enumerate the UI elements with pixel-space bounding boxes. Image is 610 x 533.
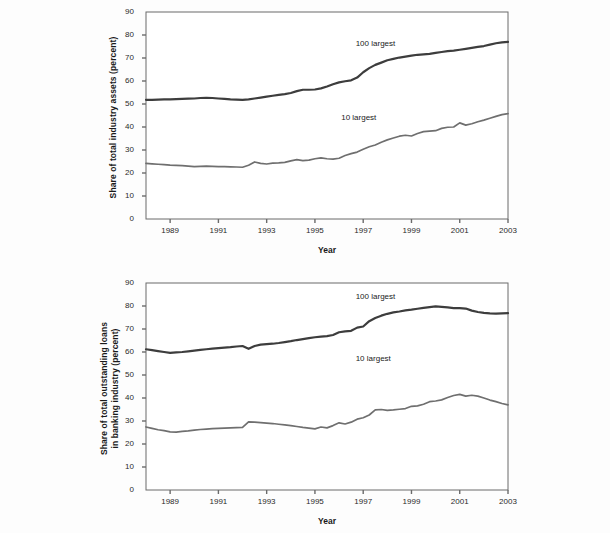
y-tick-label: 60 (114, 348, 134, 356)
y-tick-label: 50 (114, 371, 134, 379)
y-tick-label: 20 (114, 169, 134, 177)
x-tick-label: 2003 (493, 498, 523, 506)
y-tick-label: 10 (114, 192, 134, 200)
y-tick-label: 30 (114, 146, 134, 154)
x-tick-label: 1995 (300, 227, 330, 235)
x-tick-label: 1991 (203, 498, 233, 506)
chart-panel-assets: Share of total industry assets (percent)… (0, 0, 610, 266)
x-tick-label: 1997 (348, 227, 378, 235)
series-annotation-100-largest-top: 100 largest (356, 39, 396, 48)
y-tick-label: 90 (114, 8, 134, 16)
x-tick-label: 1995 (300, 498, 330, 506)
x-tick-label: 1999 (396, 498, 426, 506)
x-tick-label: 1997 (348, 498, 378, 506)
plot-area-bottom (142, 279, 512, 494)
y-tick-label: 20 (114, 440, 134, 448)
y-tick-label: 0 (114, 486, 134, 494)
x-tick-label: 2001 (445, 227, 475, 235)
y-tick-label: 70 (114, 325, 134, 333)
x-tick-label: 1989 (155, 227, 185, 235)
y-tick-label: 70 (114, 54, 134, 62)
y-tick-label: 60 (114, 77, 134, 85)
x-tick-label: 1989 (155, 498, 185, 506)
series-annotation-100-largest-bottom: 100 largest (356, 292, 396, 301)
y-tick-label: 40 (114, 123, 134, 131)
x-tick-label: 2003 (493, 227, 523, 235)
series-annotation-10-largest-top: 10 largest (341, 113, 376, 122)
y-tick-label: 50 (114, 100, 134, 108)
y-tick-label: 0 (114, 215, 134, 223)
plot-area-top (142, 8, 512, 223)
y-tick-label: 30 (114, 417, 134, 425)
y-tick-label: 10 (114, 463, 134, 471)
chart-panel-loans: Share of total outstanding loansin banki… (0, 266, 610, 533)
figure-page: Share of total industry assets (percent)… (0, 0, 610, 533)
x-tick-label: 1993 (252, 227, 282, 235)
y-tick-label: 90 (114, 279, 134, 287)
series-annotation-10-largest-bottom: 10 largest (356, 354, 391, 363)
y-axis-title-top: Share of total industry assets (percent) (108, 14, 119, 221)
y-tick-label: 80 (114, 31, 134, 39)
x-axis-title-top: Year (287, 245, 367, 255)
x-tick-label: 2001 (445, 498, 475, 506)
y-tick-label: 80 (114, 302, 134, 310)
x-axis-title-bottom: Year (287, 516, 367, 526)
x-tick-label: 1991 (203, 227, 233, 235)
x-tick-label: 1993 (252, 498, 282, 506)
y-tick-label: 40 (114, 394, 134, 402)
x-tick-label: 1999 (396, 227, 426, 235)
y-axis-title-bottom: Share of total outstanding loansin banki… (99, 285, 120, 492)
